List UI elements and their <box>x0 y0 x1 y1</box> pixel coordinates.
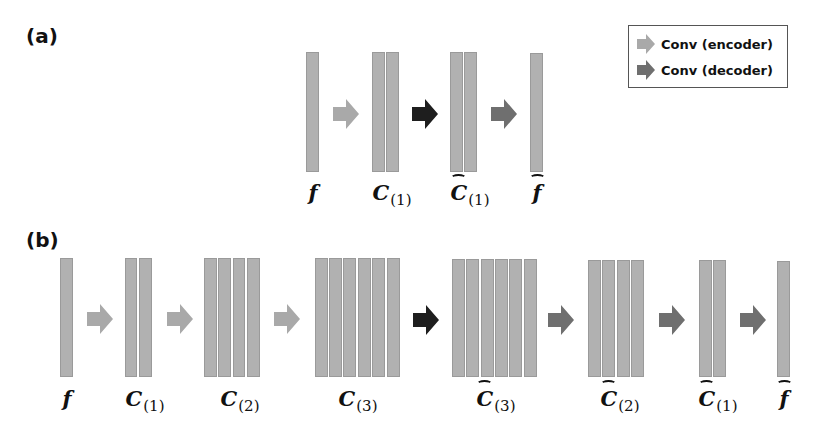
bar-b-c3-6 <box>387 258 400 377</box>
bar-b-c3hat-4 <box>495 259 508 377</box>
label-a-c1hat: C(1) <box>451 180 490 205</box>
label-b-f: f <box>62 386 71 411</box>
bar-a-c1-2 <box>386 52 399 172</box>
bar-b-c2-1 <box>204 258 217 377</box>
bar-a-c1-1 <box>372 52 385 172</box>
panel-b-label: (b) <box>26 228 59 252</box>
bar-b-c3hat-1 <box>452 259 465 377</box>
bar-b-c3hat-6 <box>524 259 537 377</box>
bar-b-c2hat-3 <box>617 260 630 377</box>
legend-item-decoder: Conv (decoder) <box>637 59 773 81</box>
label-b-c1hat: C(1) <box>699 386 738 411</box>
bar-b-c2-2 <box>218 258 231 377</box>
bar-b-c3hat-3 <box>481 259 494 377</box>
label-b-c2hat: C(2) <box>601 386 640 411</box>
bottleneck-arrow-icon <box>412 99 438 129</box>
encoder-arrow-icon <box>87 304 113 334</box>
bar-b-c2-4 <box>247 258 260 377</box>
bar-b-c2hat-1 <box>588 260 601 377</box>
label-b-fhat: f <box>779 386 788 411</box>
bottleneck-arrow-icon <box>413 305 439 335</box>
bar-b-c3hat-5 <box>509 259 522 377</box>
decoder-arrow-icon <box>548 305 574 335</box>
legend-label-decoder: Conv (decoder) <box>661 63 773 78</box>
label-b-c1: C(1) <box>126 386 165 411</box>
label-b-c3hat: C(3) <box>477 386 516 411</box>
bar-b-c3-1 <box>315 258 328 377</box>
encoder-arrow-icon <box>637 34 655 54</box>
bar-b-c1hat-2 <box>713 260 726 377</box>
legend-item-encoder: Conv (encoder) <box>637 33 773 55</box>
bar-a-f <box>306 52 319 172</box>
bar-b-c1-1 <box>125 258 137 377</box>
bar-b-f <box>60 258 73 377</box>
bar-b-c1hat-1 <box>699 260 712 377</box>
legend: Conv (encoder) Conv (decoder) <box>628 25 788 88</box>
bar-a-c1hat-1 <box>450 52 463 172</box>
bar-b-c3-5 <box>372 258 385 377</box>
bar-a-c1hat-2 <box>464 52 477 172</box>
encoder-arrow-icon <box>167 304 193 334</box>
decoder-arrow-icon <box>637 60 655 80</box>
decoder-arrow-icon <box>740 305 766 335</box>
bar-b-c2hat-2 <box>602 260 615 377</box>
bar-b-c2hat-4 <box>631 260 644 377</box>
panel-a-label: (a) <box>26 24 58 48</box>
label-b-c3: C(3) <box>339 386 378 411</box>
bar-b-fhat <box>777 261 790 377</box>
bar-b-c3-4 <box>358 258 371 377</box>
bar-a-fhat <box>530 53 543 172</box>
decoder-arrow-icon <box>659 305 685 335</box>
bar-b-c3-2 <box>329 258 342 377</box>
label-b-c2: C(2) <box>221 386 260 411</box>
label-a-fhat: f <box>532 180 541 205</box>
decoder-arrow-icon <box>491 99 517 129</box>
bar-b-c1-2 <box>139 258 152 377</box>
encoder-arrow-icon <box>333 99 359 129</box>
legend-label-encoder: Conv (encoder) <box>661 37 773 52</box>
bar-b-c3-3 <box>343 258 356 377</box>
bar-b-c2-3 <box>233 258 245 377</box>
bar-b-c3hat-2 <box>466 259 479 377</box>
label-a-f: f <box>308 180 317 205</box>
label-a-c1: C(1) <box>373 180 412 205</box>
encoder-arrow-icon <box>274 304 300 334</box>
